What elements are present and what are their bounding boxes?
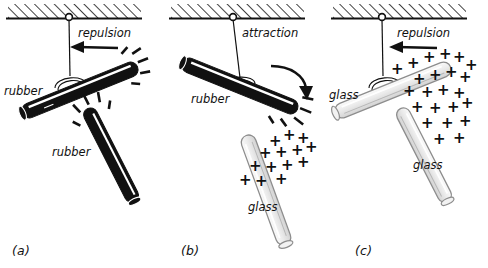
panel-b-hanging-rod-label: rubber bbox=[191, 92, 229, 106]
panel-a-hand-rod-label: rubber bbox=[52, 145, 90, 159]
svg-text:+: + bbox=[437, 81, 450, 99]
panel-a-caption: (a) bbox=[12, 243, 30, 258]
panel-b-hand-rod-label: glass bbox=[248, 200, 278, 214]
svg-text:+: + bbox=[239, 171, 252, 189]
svg-text:+: + bbox=[255, 172, 268, 190]
svg-text:+: + bbox=[461, 94, 474, 112]
ceiling bbox=[6, 4, 142, 19]
panel-a-drawing bbox=[0, 0, 163, 268]
electrostatics-figure: repulsion rubber rubber (a) bbox=[0, 0, 488, 268]
svg-text:+: + bbox=[445, 63, 458, 81]
panel-b: + + + + + + + + + + + + + + attraction bbox=[163, 0, 326, 268]
svg-text:+: + bbox=[421, 114, 434, 132]
repulsion-arrow bbox=[70, 41, 118, 53]
svg-text:+: + bbox=[423, 48, 436, 66]
panel-c-hand-rod-label: glass bbox=[413, 158, 443, 172]
svg-text:+: + bbox=[297, 153, 310, 171]
panel-c-hanging-rod-label: glass bbox=[329, 88, 359, 102]
panel-a-hanging-rod-label: rubber bbox=[4, 84, 42, 98]
panel-b-force-label: attraction bbox=[242, 26, 298, 40]
svg-text:+: + bbox=[391, 60, 404, 78]
ceiling bbox=[331, 4, 467, 19]
panel-c: + + + + + + + + + + + + + + + + + + + + bbox=[325, 0, 488, 268]
panel-a-force-label: repulsion bbox=[78, 26, 131, 40]
panel-c-force-label: repulsion bbox=[397, 26, 450, 40]
panel-b-drawing: + + + + + + + + + + + + + + bbox=[163, 0, 326, 268]
panel-a: repulsion rubber rubber (a) bbox=[0, 0, 163, 268]
panel-c-drawing: + + + + + + + + + + + + + + + + + + + + bbox=[325, 0, 488, 268]
svg-text:+: + bbox=[439, 45, 452, 63]
svg-text:+: + bbox=[459, 112, 472, 130]
svg-text:+: + bbox=[275, 170, 288, 188]
panel-c-caption: (c) bbox=[355, 243, 372, 258]
panel-b-caption: (b) bbox=[181, 243, 199, 258]
svg-text:+: + bbox=[433, 130, 446, 148]
svg-text:+: + bbox=[453, 129, 466, 147]
